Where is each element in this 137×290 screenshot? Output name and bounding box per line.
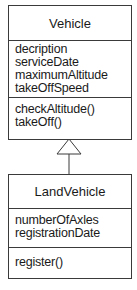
- operation: takeOff(): [15, 116, 131, 129]
- class-name: LandVehicle: [9, 175, 131, 208]
- operations-section: register(): [9, 247, 131, 278]
- class-name: Vehicle: [9, 6, 131, 40]
- class-land-vehicle[interactable]: LandVehicle numberOfAxles registrationDa…: [8, 174, 132, 279]
- operation: register(): [15, 256, 131, 269]
- generalization-triangle-icon: [57, 139, 81, 154]
- attribute: registrationDate: [15, 227, 131, 240]
- attribute: takeOffSpeed: [15, 82, 131, 95]
- operations-section: checkAltitude() takeOff(): [9, 97, 131, 139]
- attributes-section: numberOfAxles registrationDate: [9, 208, 131, 247]
- class-vehicle[interactable]: Vehicle decription serviceDate maximumAl…: [8, 5, 132, 140]
- attributes-section: decription serviceDate maximumAltitude t…: [9, 40, 131, 97]
